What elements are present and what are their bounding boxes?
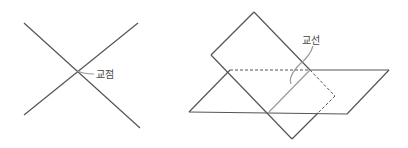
line-a (24, 23, 140, 128)
line-b (24, 23, 138, 115)
intersecting-planes-figure: 교선 (189, 12, 389, 139)
tilted-plane-edge-hidden (310, 70, 335, 96)
tilted-plane-edge-hidden-2 (318, 96, 335, 113)
intersecting-lines-figure: 교점 (24, 23, 140, 128)
horizontal-plane-right-edge (347, 70, 389, 114)
tilted-plane-left-edge (211, 55, 292, 139)
intersection-point-label: 교점 (96, 69, 114, 80)
tilted-plane-bottom-edge (292, 113, 318, 139)
intersection-line (269, 70, 310, 112)
intersection-line-label: 교선 (302, 35, 320, 46)
tilted-plane-top-left-edge (211, 12, 254, 55)
diagram-canvas: 교점 교선 (0, 0, 408, 148)
horizontal-plane-left-edge (189, 70, 230, 112)
